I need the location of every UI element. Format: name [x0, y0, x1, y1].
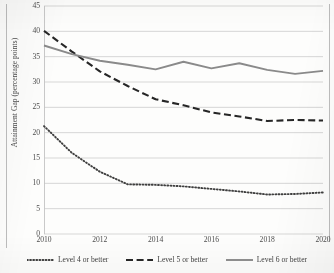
- x-tick-label: 2012: [80, 236, 120, 244]
- x-tick-label: 2010: [24, 236, 64, 244]
- x-tick-label: 2016: [191, 236, 231, 244]
- series-layer: [44, 31, 323, 195]
- legend-item[interactable]: Level 6 or better: [226, 256, 307, 264]
- legend-swatch-dotted-icon: [27, 257, 54, 263]
- legend-swatch-dashed-icon: [126, 257, 153, 263]
- x-tick-label: 2014: [136, 236, 176, 244]
- legend-item[interactable]: Level 4 or better: [27, 256, 108, 264]
- legend-item[interactable]: Level 5 or better: [126, 256, 207, 264]
- chart-legend: Level 4 or betterLevel 5 or betterLevel …: [0, 253, 334, 267]
- x-tick-label: 2020: [303, 236, 334, 244]
- x-tick-label: 2018: [247, 236, 287, 244]
- series-line-3: [44, 46, 323, 74]
- series-line-1: [44, 126, 323, 194]
- plot-area: [0, 0, 334, 273]
- legend-label: Level 5 or better: [157, 256, 207, 264]
- legend-label: Level 6 or better: [257, 256, 307, 264]
- legend-label: Level 4 or better: [58, 256, 108, 264]
- x-axis-tick-labels: 201020122014201620182020: [0, 236, 334, 250]
- legend-swatch-solid-icon: [226, 257, 253, 263]
- line-chart: Attainment Gap (percentage points) 05101…: [0, 0, 334, 273]
